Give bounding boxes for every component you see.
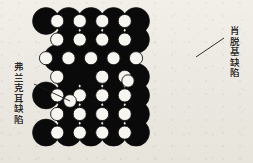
small-ion — [39, 52, 52, 65]
schottky-pointer-line — [196, 38, 224, 57]
frenkel-defect-label: 弗兰克耳缺陷 — [12, 62, 23, 125]
small-ion — [51, 33, 64, 46]
small-ion — [118, 89, 131, 102]
small-ion — [73, 107, 86, 120]
schottky-defect-label: 肖脱基缺陷 — [228, 26, 239, 79]
small-ion — [84, 52, 97, 65]
small-ion — [118, 107, 131, 120]
small-ion — [96, 33, 109, 46]
crystal-lattice-svg — [0, 0, 253, 163]
small-ion — [96, 14, 109, 27]
small-ion — [96, 89, 109, 102]
small-ion — [51, 14, 64, 27]
small-ion — [96, 107, 109, 120]
small-ion — [118, 14, 131, 27]
small-ion — [62, 52, 75, 65]
small-ion — [129, 52, 142, 65]
small-ion — [96, 70, 109, 83]
small-ion — [118, 33, 131, 46]
small-ion — [51, 126, 64, 139]
small-ion — [51, 107, 64, 120]
displaced-ion — [122, 75, 134, 87]
small-ion — [96, 126, 109, 139]
small-ion — [51, 70, 64, 83]
small-ion — [73, 14, 86, 27]
small-ion — [73, 126, 86, 139]
defect-diagram-figure: 弗兰克耳缺陷 肖脱基缺陷 — [0, 0, 253, 163]
small-ion — [118, 126, 131, 139]
small-ion — [73, 33, 86, 46]
small-ion — [107, 52, 120, 65]
